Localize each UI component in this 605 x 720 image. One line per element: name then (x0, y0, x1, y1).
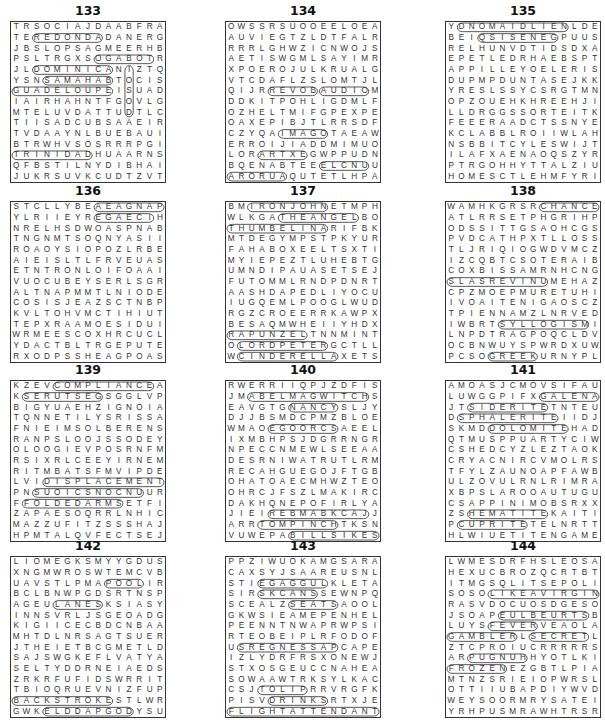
grid-letter[interactable]: A (467, 150, 477, 161)
grid-letter[interactable]: S (93, 600, 103, 611)
grid-letter[interactable]: M (73, 287, 83, 298)
grid-letter[interactable]: K (73, 557, 83, 568)
grid-letter[interactable]: D (497, 557, 507, 568)
grid-letter[interactable]: L (73, 161, 83, 172)
grid-letter[interactable]: B (288, 509, 298, 520)
grid-letter[interactable]: X (569, 341, 579, 352)
grid-letter[interactable]: R (508, 202, 518, 213)
grid-letter[interactable]: R (559, 213, 569, 224)
grid-letter[interactable]: U (134, 488, 144, 499)
grid-letter[interactable]: T (73, 466, 83, 477)
grid-letter[interactable]: R (257, 341, 267, 352)
grid-letter[interactable]: C (247, 75, 257, 86)
grid-letter[interactable]: V (538, 381, 548, 392)
grid-letter[interactable]: Z (11, 674, 21, 685)
grid-letter[interactable]: E (456, 33, 466, 44)
grid-letter[interactable]: M (518, 309, 528, 320)
grid-letter[interactable]: O (569, 234, 579, 245)
grid-letter[interactable]: S (257, 589, 267, 600)
grid-letter[interactable]: U (298, 266, 308, 277)
grid-letter[interactable]: T (308, 171, 318, 182)
grid-letter[interactable]: I (288, 381, 298, 392)
grid-letter[interactable]: P (277, 97, 287, 108)
grid-letter[interactable]: A (144, 621, 154, 632)
grid-letter[interactable]: C (528, 118, 538, 129)
grid-letter[interactable]: E (559, 424, 569, 435)
grid-letter[interactable]: Q (257, 298, 267, 309)
grid-letter[interactable]: O (103, 488, 113, 499)
grid-letter[interactable]: D (487, 424, 497, 435)
grid-letter[interactable]: I (579, 664, 589, 675)
grid-letter[interactable]: P (359, 107, 369, 118)
grid-letter[interactable]: H (528, 54, 538, 65)
grid-letter[interactable]: L (318, 118, 328, 129)
grid-letter[interactable]: L (298, 330, 308, 341)
grid-letter[interactable]: G (329, 97, 339, 108)
grid-letter[interactable]: S (62, 330, 72, 341)
grid-letter[interactable]: P (277, 341, 287, 352)
grid-letter[interactable]: E (590, 202, 600, 213)
grid-letter[interactable]: H (144, 43, 154, 54)
grid-letter[interactable]: I (267, 610, 277, 621)
grid-letter[interactable]: V (62, 107, 72, 118)
grid-letter[interactable]: L (446, 621, 456, 632)
grid-letter[interactable]: R (549, 642, 559, 653)
grid-letter[interactable]: G (569, 589, 579, 600)
grid-letter[interactable]: N (277, 445, 287, 456)
grid-letter[interactable]: E (456, 696, 466, 707)
grid-letter[interactable]: I (144, 75, 154, 86)
grid-letter[interactable]: K (329, 309, 339, 320)
grid-letter[interactable]: T (32, 632, 42, 643)
grid-letter[interactable]: C (114, 298, 124, 309)
grid-letter[interactable]: S (508, 266, 518, 277)
grid-letter[interactable]: Y (339, 319, 349, 330)
grid-letter[interactable]: S (487, 578, 497, 589)
grid-letter[interactable]: H (83, 75, 93, 86)
grid-letter[interactable]: G (329, 341, 339, 352)
grid-letter[interactable]: A (329, 54, 339, 65)
grid-letter[interactable]: L (518, 610, 528, 621)
grid-letter[interactable]: L (508, 578, 518, 589)
grid-letter[interactable]: Q (83, 509, 93, 520)
grid-letter[interactable]: U (42, 600, 52, 611)
grid-letter[interactable]: D (359, 118, 369, 129)
grid-letter[interactable]: A (298, 129, 308, 140)
grid-letter[interactable]: N (569, 202, 579, 213)
grid-letter[interactable]: D (103, 621, 113, 632)
grid-letter[interactable]: C (549, 632, 559, 643)
grid-letter[interactable]: P (528, 685, 538, 696)
grid-letter[interactable]: R (518, 129, 528, 140)
grid-letter[interactable]: R (42, 97, 52, 108)
grid-letter[interactable]: A (370, 22, 380, 33)
grid-letter[interactable]: T (538, 255, 548, 266)
grid-letter[interactable]: C (308, 664, 318, 675)
grid-letter[interactable]: O (83, 696, 93, 707)
grid-letter[interactable]: R (538, 97, 548, 108)
grid-letter[interactable]: S (83, 557, 93, 568)
grid-letter[interactable]: F (73, 674, 83, 685)
grid-letter[interactable]: L (446, 330, 456, 341)
grid-letter[interactable]: S (487, 557, 497, 568)
grid-letter[interactable]: S (456, 509, 466, 520)
grid-letter[interactable]: V (52, 610, 62, 621)
grid-letter[interactable]: K (93, 696, 103, 707)
grid-letter[interactable]: G (124, 392, 134, 403)
grid-letter[interactable]: G (288, 54, 298, 65)
grid-letter[interactable]: T (497, 223, 507, 234)
grid-letter[interactable]: E (32, 392, 42, 403)
grid-letter[interactable]: A (538, 54, 548, 65)
grid-letter[interactable]: S (93, 277, 103, 288)
grid-letter[interactable]: E (247, 509, 257, 520)
grid-letter[interactable]: P (236, 557, 246, 568)
grid-letter[interactable]: I (590, 509, 600, 520)
grid-letter[interactable]: X (528, 392, 538, 403)
grid-letter[interactable]: C (42, 277, 52, 288)
grid-letter[interactable]: K (267, 589, 277, 600)
grid-letter[interactable]: D (226, 413, 236, 424)
grid-letter[interactable]: M (236, 202, 246, 213)
grid-letter[interactable]: I (487, 298, 497, 309)
grid-letter[interactable]: T (277, 107, 287, 118)
grid-letter[interactable]: E (497, 97, 507, 108)
grid-letter[interactable]: N (267, 621, 277, 632)
grid-letter[interactable]: A (477, 610, 487, 621)
